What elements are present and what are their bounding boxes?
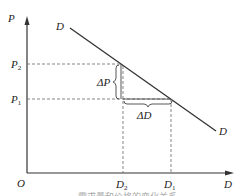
demand-curve-diagram: P D O D D P2 P1 D2 D1 ΔP ΔD ……需求量和价格的变化关… [0, 0, 238, 196]
p2-label: P2 [10, 58, 22, 72]
origin-label: O [17, 177, 25, 189]
y-axis-arrow-icon [25, 16, 30, 25]
delta-d-label: ΔD [136, 109, 151, 121]
caption: ……需求量和价格的变化关系 [60, 191, 177, 196]
delta-p-brace [113, 65, 119, 99]
delta-p-label: ΔP [96, 76, 110, 88]
curve-label-end: D [218, 125, 227, 137]
x-axis-arrow-icon [225, 171, 234, 176]
y-axis-label: P [7, 12, 15, 24]
p1-label: P1 [10, 93, 22, 107]
x-axis-label: D [223, 178, 232, 190]
d2-label: D2 [115, 178, 128, 192]
curve-label-start: D [55, 20, 64, 32]
delta-d-brace [124, 101, 172, 107]
d1-label: D1 [163, 178, 176, 192]
